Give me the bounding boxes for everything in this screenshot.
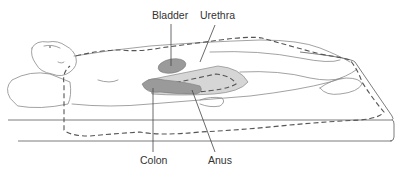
patient-position-diagram: Bladder Urethra Colon Anus <box>0 0 401 176</box>
label-urethra: Urethra <box>200 10 235 21</box>
urethra-leader <box>200 25 215 62</box>
label-colon: Colon <box>140 155 167 166</box>
head <box>32 42 77 76</box>
mattress <box>8 52 394 141</box>
label-bladder: Bladder <box>152 10 188 21</box>
illustration <box>0 0 401 176</box>
pillow <box>7 73 70 108</box>
bladder-organ <box>157 57 187 76</box>
label-anus: Anus <box>208 155 232 166</box>
